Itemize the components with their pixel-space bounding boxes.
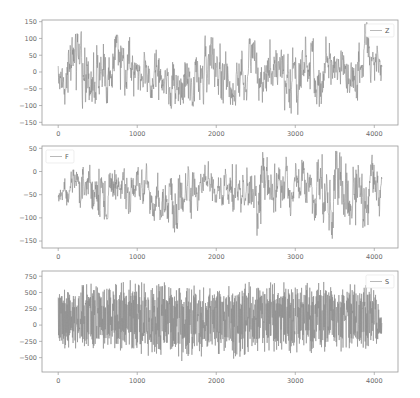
x-tick-label: 4000 <box>366 377 383 385</box>
y-tick-label: 0 <box>33 168 37 176</box>
y-tick-label: 250 <box>25 305 37 313</box>
x-tick-label: 0 <box>56 377 60 385</box>
x-tick-label: 1000 <box>129 377 146 385</box>
y-axis: −150−100−50050100150 <box>19 18 42 127</box>
x-tick-label: 1000 <box>129 130 146 138</box>
y-tick-label: 50 <box>29 145 37 153</box>
line-path <box>58 280 382 361</box>
y-tick-label: 750 <box>25 273 37 281</box>
chart-panel-s: −500−2500250500750 01000200030004000 S <box>19 271 398 385</box>
y-axis: −500−2500250500750 <box>19 273 42 362</box>
x-tick-label: 0 <box>56 253 60 261</box>
x-tick-label: 3000 <box>287 130 304 138</box>
x-tick-label: 3000 <box>287 377 304 385</box>
line-path <box>58 22 382 114</box>
x-tick-label: 2000 <box>208 253 225 261</box>
figure: −150−100−50050100150 01000200030004000 Z… <box>0 0 420 398</box>
y-tick-label: −50 <box>23 191 37 199</box>
x-tick-label: 3000 <box>287 253 304 261</box>
y-tick-label: −500 <box>19 354 37 362</box>
x-tick-label: 0 <box>56 130 60 138</box>
x-tick-label: 4000 <box>366 130 383 138</box>
line-path <box>58 151 382 239</box>
y-tick-label: 100 <box>25 35 37 43</box>
y-tick-label: −100 <box>19 102 37 110</box>
y-tick-label: 0 <box>33 68 37 76</box>
x-axis: 01000200030004000 <box>56 372 382 385</box>
chart-panel-f: −150−100−50050 01000200030004000 F <box>19 145 398 261</box>
x-tick-label: 2000 <box>208 130 225 138</box>
line-series-z <box>58 22 382 114</box>
y-tick-label: 150 <box>25 18 37 26</box>
y-tick-label: −150 <box>19 237 37 245</box>
x-tick-label: 4000 <box>366 253 383 261</box>
y-tick-label: 0 <box>33 321 37 329</box>
y-axis: −150−100−50050 <box>19 145 42 246</box>
y-tick-label: 500 <box>25 289 37 297</box>
legend-label: S <box>385 278 389 286</box>
x-axis: 01000200030004000 <box>56 248 382 261</box>
y-tick-label: 50 <box>29 52 37 60</box>
y-tick-label: −100 <box>19 214 37 222</box>
x-axis: 01000200030004000 <box>56 125 382 138</box>
y-tick-label: −50 <box>23 85 37 93</box>
x-tick-label: 2000 <box>208 377 225 385</box>
y-tick-label: −250 <box>19 338 37 346</box>
line-series-f <box>58 151 382 239</box>
x-tick-label: 1000 <box>129 253 146 261</box>
chart-panel-z: −150−100−50050100150 01000200030004000 Z <box>19 18 398 138</box>
legend: S <box>366 275 394 288</box>
legend: F <box>46 150 74 163</box>
legend-label: F <box>65 153 69 161</box>
legend-label: Z <box>385 27 390 35</box>
legend: Z <box>366 24 394 37</box>
line-series-s <box>58 280 382 361</box>
y-tick-label: −150 <box>19 119 37 127</box>
